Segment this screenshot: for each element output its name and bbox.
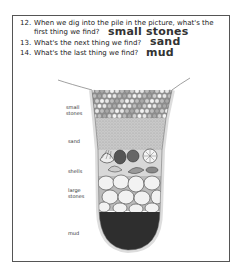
pebble — [162, 94, 167, 99]
label-line: shells — [68, 168, 82, 174]
pebble — [162, 104, 167, 109]
pebble — [130, 99, 135, 104]
label-line: sand — [68, 138, 80, 144]
pebble — [172, 104, 177, 109]
pebble — [107, 94, 112, 99]
pebble — [140, 109, 145, 114]
pebble — [110, 89, 115, 94]
pebble — [130, 109, 135, 114]
dig-pile-diagram — [0, 0, 238, 277]
label-mud: mud — [68, 230, 79, 236]
pebble — [130, 89, 135, 94]
pebble — [102, 104, 107, 109]
pebble — [132, 94, 137, 99]
pebble — [165, 99, 170, 104]
pebble — [115, 99, 120, 104]
pebble — [137, 104, 142, 109]
pebble — [137, 114, 142, 119]
label-large-stones: large stones — [68, 187, 84, 199]
pebble — [102, 94, 107, 99]
pebble — [110, 99, 115, 104]
pebble — [105, 99, 110, 104]
pebble — [165, 89, 170, 94]
pebble — [95, 99, 100, 104]
pebble — [145, 109, 150, 114]
pebble — [97, 94, 102, 99]
pebble — [152, 104, 157, 109]
pebble — [142, 94, 147, 99]
pebble — [125, 109, 130, 114]
large-stones — [98, 175, 163, 214]
pebble — [135, 109, 140, 114]
pebble — [142, 104, 147, 109]
pebble — [127, 104, 132, 109]
pebble — [127, 114, 132, 119]
label-line: stones — [68, 193, 84, 199]
pebble — [105, 89, 110, 94]
pebble — [97, 114, 102, 119]
pebble — [122, 104, 127, 109]
pebble — [112, 94, 117, 99]
pebble — [120, 89, 125, 94]
label-sand: sand — [68, 138, 80, 144]
pebble — [147, 94, 152, 99]
pebble — [95, 109, 100, 114]
pebble — [95, 89, 100, 94]
pebble — [100, 89, 105, 94]
pebble — [150, 99, 155, 104]
pebble — [97, 104, 102, 109]
pebble — [102, 114, 107, 119]
pebble — [125, 89, 130, 94]
pebble — [155, 99, 160, 104]
pebble — [112, 114, 117, 119]
pebble — [157, 114, 162, 119]
label-small-stones: small stones — [66, 104, 82, 116]
pebble — [110, 109, 115, 114]
pebble — [122, 114, 127, 119]
pebble — [105, 109, 110, 114]
pebble — [145, 99, 150, 104]
pebble — [132, 104, 137, 109]
pebble — [120, 109, 125, 114]
pebble — [117, 94, 122, 99]
pebble — [152, 114, 157, 119]
pebble — [107, 104, 112, 109]
pebble — [127, 94, 132, 99]
pebble — [155, 109, 160, 114]
pebble — [160, 109, 165, 114]
pebble — [115, 109, 120, 114]
pebble — [100, 109, 105, 114]
pebble — [150, 89, 155, 94]
pebble — [157, 104, 162, 109]
pebble — [155, 89, 160, 94]
pebble — [117, 104, 122, 109]
pebble — [172, 114, 177, 119]
label-line: stones — [66, 110, 82, 116]
pebble — [132, 114, 137, 119]
pebble — [120, 99, 125, 104]
pebble — [100, 99, 105, 104]
ground-line — [58, 78, 190, 90]
pebble — [122, 94, 127, 99]
pebble — [150, 109, 155, 114]
label-shells: shells — [68, 168, 82, 174]
pebble — [145, 89, 150, 94]
pebble — [125, 99, 130, 104]
pebble — [160, 89, 165, 94]
label-line: mud — [68, 230, 79, 236]
pebble — [117, 114, 122, 119]
pebble — [147, 114, 152, 119]
pebble — [157, 94, 162, 99]
pebble — [140, 99, 145, 104]
pebble — [137, 94, 142, 99]
pebble — [147, 104, 152, 109]
pebble — [140, 89, 145, 94]
pebble — [135, 89, 140, 94]
pebble — [115, 89, 120, 94]
pebble — [107, 114, 112, 119]
pebble — [152, 94, 157, 99]
pebble — [142, 114, 147, 119]
pebble — [112, 104, 117, 109]
pebble — [160, 99, 165, 104]
pebble — [135, 99, 140, 104]
